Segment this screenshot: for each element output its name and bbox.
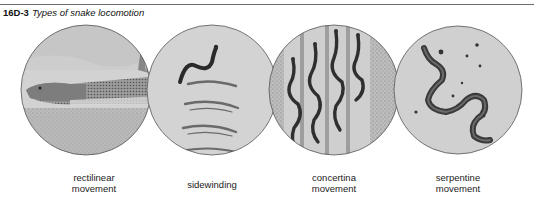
label-line: movement <box>39 183 149 194</box>
label-line: movement <box>279 183 389 194</box>
sidewinding-snake-illustration <box>147 25 277 155</box>
label-line: movement <box>403 183 513 194</box>
label-line: sidewinding <box>157 179 267 190</box>
concertina-snake-illustration <box>268 20 400 160</box>
label-serpentine: serpentine movement <box>403 172 513 194</box>
label-concertina: concertina movement <box>279 172 389 194</box>
snake-locomotion-figure <box>0 0 534 200</box>
label-line: serpentine <box>403 172 513 183</box>
rectilinear-snake-illustration <box>20 20 160 160</box>
label-line: concertina <box>279 172 389 183</box>
label-line: rectilinear <box>39 172 149 183</box>
serpentine-snake-illustration <box>394 26 522 154</box>
label-rectilinear: rectilinear movement <box>39 172 149 194</box>
label-sidewinding: sidewinding <box>157 179 267 190</box>
